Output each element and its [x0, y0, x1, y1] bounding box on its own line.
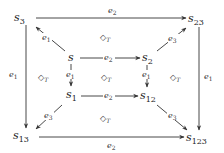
- commute-marker-top: ◇T: [100, 33, 111, 43]
- node-s23: s23: [188, 12, 204, 27]
- node-s: s: [68, 51, 74, 64]
- node-s13: s13: [13, 129, 29, 144]
- label-s13-s123: e2: [107, 141, 116, 151]
- node-s1: s1: [66, 88, 77, 103]
- commute-marker-bottom: ◇T: [100, 114, 111, 124]
- commute-marker-right: ◇T: [170, 73, 181, 83]
- node-s12: s12: [140, 89, 156, 104]
- commute-marker-left: ◇T: [38, 73, 49, 83]
- label-s3-s23: e2: [108, 6, 117, 16]
- label-s23-s123: e1: [204, 72, 213, 82]
- commutative-cube-diagram: e2 e1 e3 e2 e1 e1 e2 e1 e1 e3 e3 e2 ◇T ◇…: [0, 0, 224, 153]
- node-s123: s123: [186, 131, 207, 146]
- label-s3-s13: e1: [9, 70, 18, 80]
- node-s2: s2: [142, 51, 153, 66]
- node-s3: s3: [14, 11, 25, 26]
- commute-marker-center: ◇T: [101, 73, 112, 83]
